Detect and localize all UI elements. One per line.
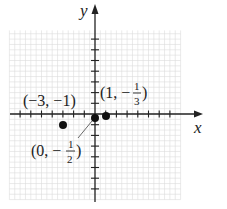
point-neg3-neg1 — [59, 121, 67, 129]
x-axis-arrow-icon — [194, 111, 203, 118]
point-label-neg3-neg1: (−3, −1) — [23, 92, 76, 110]
point-1-neg-third — [102, 112, 110, 120]
x-axis-label: x — [193, 118, 202, 137]
point-label-1-neg-third-prefix: (1, − — [100, 84, 130, 102]
point-label-0-neg-half-den: 2 — [67, 153, 73, 165]
point-label-1-neg-third-den: 3 — [134, 95, 140, 107]
point-label-0-neg-half-prefix: (0, − — [31, 142, 61, 160]
point-0-neg-half — [91, 114, 99, 122]
point-label-1-neg-third-suffix: ) — [142, 84, 147, 102]
y-axis-label: y — [78, 1, 88, 20]
point-label-1-neg-third-num: 1 — [134, 80, 140, 92]
y-axis-arrow-icon — [92, 4, 99, 14]
point-label-0-neg-half-suffix: ) — [76, 142, 81, 160]
coordinate-plane: x y (−3, −1) (1, − 1 3 ) (0, − 1 2 ) — [0, 0, 227, 209]
point-label-0-neg-half-num: 1 — [68, 138, 74, 150]
